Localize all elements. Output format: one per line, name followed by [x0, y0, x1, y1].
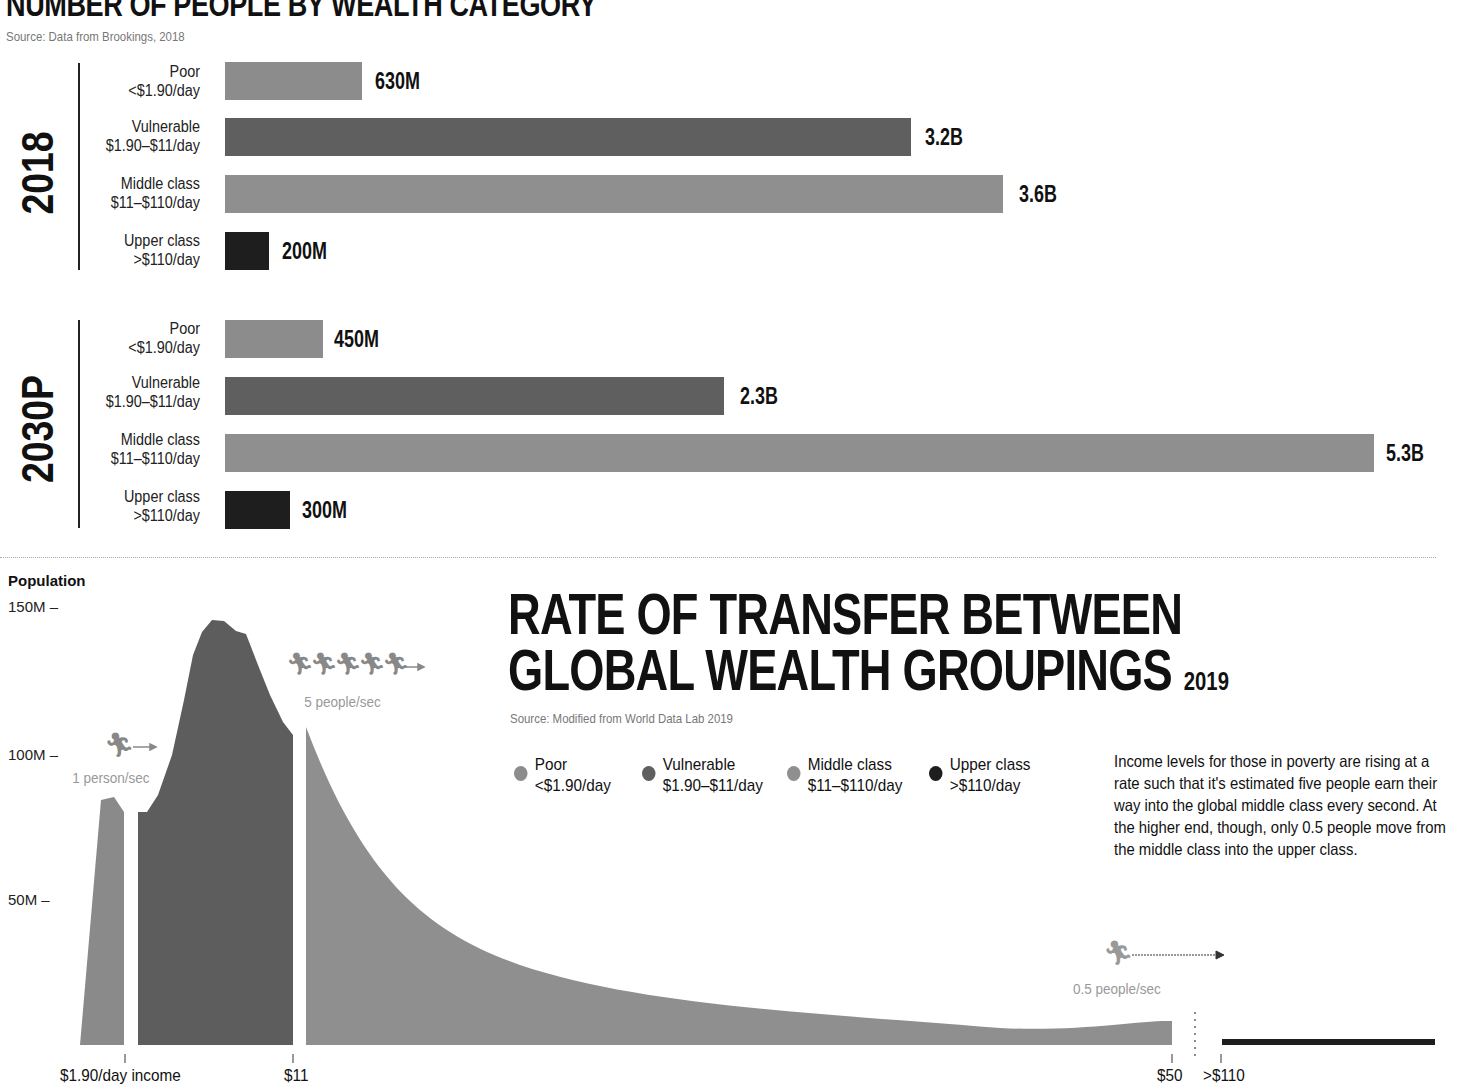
rate-label: 0.5 people/sec [1073, 980, 1161, 997]
runner-icon: 🏃︎ [104, 731, 134, 759]
legend-item-vulnerable: Vulnerable$1.90–$11/day [642, 754, 763, 796]
legend-dot-icon [642, 766, 656, 781]
rate-label: 5 people/sec [304, 693, 381, 710]
bottom-chart-source: Source: Modified from World Data Lab 201… [510, 711, 733, 726]
distribution-area-chart [0, 0, 1461, 1086]
rate-label: 1 person/sec [72, 769, 149, 786]
description-text: Income levels for those in poverty are r… [1114, 750, 1456, 860]
x-label: $1.90/day income [60, 1066, 181, 1086]
runner-icon: 🏃︎ [1103, 939, 1133, 967]
runners-icon: 🏃︎🏃︎🏃︎🏃︎🏃︎ [286, 651, 406, 677]
x-label: $11 [284, 1066, 308, 1086]
x-label: $50 [1157, 1066, 1183, 1086]
area-upper [1222, 1039, 1435, 1045]
legend-dot-icon [787, 766, 801, 781]
legend-dot-icon [929, 766, 943, 781]
legend-dot-icon [514, 766, 528, 781]
legend-item-poor: Poor<$1.90/day [514, 754, 611, 796]
legend-item-upper: Upper class>$110/day [929, 754, 1030, 796]
legend-item-middle: Middle class$11–$110/day [787, 754, 902, 796]
area-vulnerable [138, 620, 293, 1045]
bottom-chart-title: RATE OF TRANSFER BETWEEN GLOBAL WEALTH G… [508, 586, 1229, 709]
area-poor [80, 797, 124, 1045]
title-year: 2019 [1184, 666, 1229, 696]
x-label: >$110 [1203, 1066, 1245, 1086]
